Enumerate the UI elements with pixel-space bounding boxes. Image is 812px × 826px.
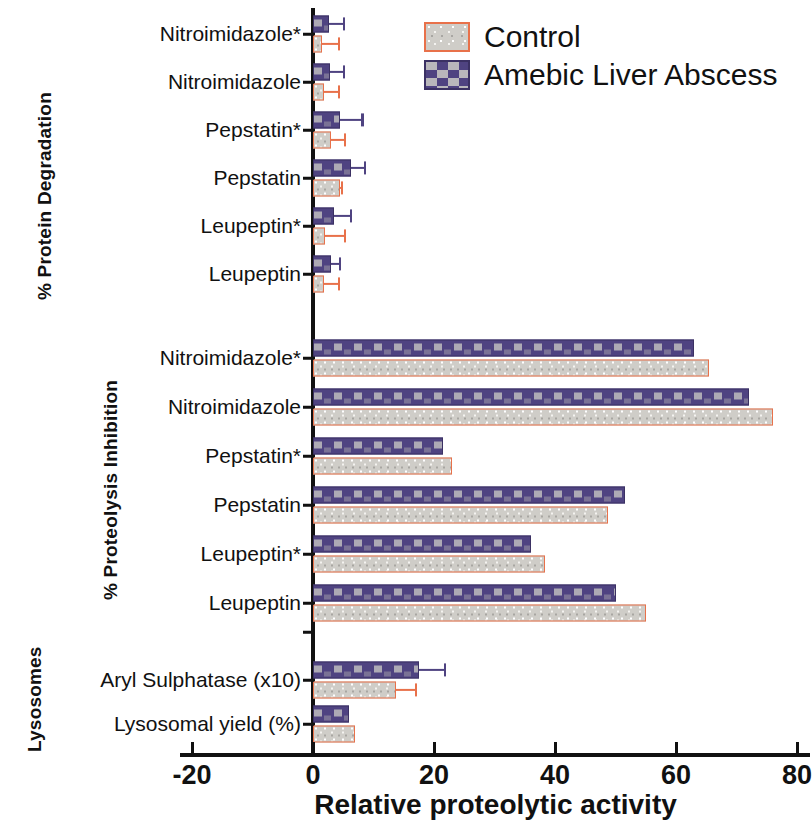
errorbar-control-g0-leupeptin-cap [338, 278, 340, 291]
category-label-g0-pepstatin: Pepstatin [0, 166, 313, 190]
category-label-g0-pepstatin-star: Pepstatin* [0, 118, 313, 142]
errorbar-control-g2-aryl-sulphatase-x10-cap [415, 684, 417, 697]
x-tick-label-60: 60 [661, 760, 691, 791]
x-tick-label-0: 0 [305, 760, 320, 791]
errorbar-control-g0-pepstatin [340, 187, 343, 189]
x-tick--20 [191, 742, 194, 755]
category-tick-g0-pepstatin [303, 177, 314, 180]
errorbar-ala-g2-aryl-sulphatase-x10 [419, 669, 446, 671]
bar-ala-g0-leupeptin-star [313, 208, 334, 225]
errorbar-control-g0-nitroimidazole-cap [338, 86, 340, 99]
category-tick-g0-leupeptin [303, 273, 314, 276]
category-tick-g0-nitroimidazole-star [303, 33, 314, 36]
category-label-g1-leupeptin-star: Leupeptin* [0, 542, 313, 566]
legend-swatch-amebic-liver-abscess-icon [424, 60, 470, 90]
bar-control-g0-nitroimidazole [313, 84, 324, 101]
errorbar-control-g0-pepstatin-cap [341, 182, 343, 195]
bar-ala-g1-nitroimidazole-star [313, 340, 694, 357]
errorbar-control-g0-nitroimidazole-star [322, 43, 340, 45]
legend-label-control: Control [484, 22, 581, 52]
category-tick-g1-leupeptin-star [303, 553, 314, 556]
bar-ala-g0-nitroimidazole [313, 64, 330, 81]
bar-control-g1-nitroimidazole [313, 409, 773, 426]
category-tick-g1-nitroimidazole [303, 406, 314, 409]
category-label-g1-pepstatin-star: Pepstatin* [0, 444, 313, 468]
bar-ala-g0-pepstatin [313, 160, 351, 177]
category-label-g1-nitroimidazole-star: Nitroimidazole* [0, 346, 313, 370]
bar-ala-g0-nitroimidazole-star [313, 16, 329, 33]
bar-ala-g0-leupeptin [313, 256, 331, 273]
errorbar-ala-g0-pepstatin-cap [364, 162, 366, 175]
errorbar-ala-g2-aryl-sulphatase-x10-cap [444, 664, 446, 677]
errorbar-control-g0-leupeptin [324, 283, 340, 285]
errorbar-ala-g0-nitroimidazole-star [329, 23, 345, 25]
errorbar-ala-g0-nitroimidazole-star-cap [343, 18, 345, 31]
x-axis-line [180, 753, 810, 757]
errorbar-control-g0-nitroimidazole [324, 91, 340, 93]
errorbar-control-g0-nitroimidazole-star-cap [338, 38, 340, 51]
bar-control-g2-aryl-sulphatase-x10 [313, 682, 396, 699]
category-tick-g0-pepstatin-star [303, 129, 314, 132]
errorbar-control-g2-aryl-sulphatase-x10 [396, 689, 417, 691]
category-label-g0-nitroimidazole-star: Nitroimidazole* [0, 22, 313, 46]
category-label-g2-lysosomal-yield: Lysosomal yield (%) [0, 712, 313, 736]
errorbar-ala-g0-leupeptin [331, 263, 341, 265]
bar-ala-g1-nitroimidazole [313, 389, 749, 406]
category-tick-g0-leupeptin-star [303, 225, 314, 228]
category-tick-g1-nitroimidazole-star [303, 357, 314, 360]
bar-control-g0-leupeptin-star [313, 228, 325, 245]
bar-control-g1-pepstatin [313, 507, 608, 524]
bar-control-g1-nitroimidazole-star [313, 360, 709, 377]
errorbar-ala-g0-leupeptin-star-cap [350, 210, 352, 223]
category-tick-group-separator [303, 631, 314, 634]
legend-item-control: Control [424, 22, 777, 52]
category-tick-g0-nitroimidazole [303, 81, 314, 84]
category-label-g1-leupeptin: Leupeptin [0, 591, 313, 615]
bar-ala-g1-pepstatin [313, 487, 625, 504]
category-label-g0-nitroimidazole: Nitroimidazole [0, 70, 313, 94]
x-tick-80 [796, 742, 799, 755]
legend: Control Amebic Liver Abscess [424, 22, 777, 90]
errorbar-control-g0-leupeptin-star [325, 235, 346, 237]
bar-ala-g1-leupeptin [313, 585, 616, 602]
bar-ala-g0-pepstatin-star [313, 112, 340, 129]
errorbar-control-g0-pepstatin-star [331, 139, 346, 141]
x-tick-20 [433, 742, 436, 755]
bar-control-g0-pepstatin [313, 180, 340, 197]
errorbar-ala-g0-pepstatin [351, 167, 366, 169]
errorbar-ala-g0-pepstatin-star [340, 119, 364, 121]
category-tick-g2-aryl-sulphatase-x10 [303, 679, 314, 682]
bar-control-g1-leupeptin [313, 605, 646, 622]
x-tick-label-40: 40 [540, 760, 570, 791]
legend-item-amebic-liver-abscess: Amebic Liver Abscess [424, 60, 777, 90]
errorbar-ala-g0-nitroimidazole-cap [343, 66, 345, 79]
legend-swatch-control-icon [424, 22, 470, 52]
category-tick-g1-pepstatin-star [303, 455, 314, 458]
errorbar-ala-g0-leupeptin-star [334, 215, 352, 217]
category-tick-g1-pepstatin [303, 504, 314, 507]
x-tick-0 [312, 742, 315, 755]
category-label-g0-leupeptin-star: Leupeptin* [0, 214, 313, 238]
bar-ala-g2-lysosomal-yield [313, 706, 349, 723]
bar-control-g1-pepstatin-star [313, 458, 452, 475]
x-tick-60 [675, 742, 678, 755]
bar-control-g0-pepstatin-star [313, 132, 331, 149]
errorbar-control-g0-pepstatin-star-cap [344, 134, 346, 147]
category-label-g2-aryl-sulphatase-x10: Aryl Sulphatase (x10) [0, 668, 313, 692]
category-label-g1-pepstatin: Pepstatin [0, 493, 313, 517]
errorbar-ala-g0-pepstatin-star-cap [361, 114, 363, 127]
x-axis-title: Relative proteolytic activity [0, 789, 811, 821]
legend-label-amebic-liver-abscess: Amebic Liver Abscess [484, 60, 777, 90]
bar-control-g0-nitroimidazole-star [313, 36, 322, 53]
x-tick-label--20: -20 [172, 760, 211, 791]
x-tick-label-80: 80 [782, 760, 812, 791]
category-tick-g1-leupeptin [303, 602, 314, 605]
errorbar-control-g0-leupeptin-star-cap [344, 230, 346, 243]
bar-ala-g2-aryl-sulphatase-x10 [313, 662, 419, 679]
errorbar-ala-g0-nitroimidazole [330, 71, 345, 73]
bar-ala-g1-pepstatin-star [313, 438, 443, 455]
bar-control-g0-leupeptin [313, 276, 324, 293]
category-label-g0-leupeptin: Leupeptin [0, 262, 313, 286]
